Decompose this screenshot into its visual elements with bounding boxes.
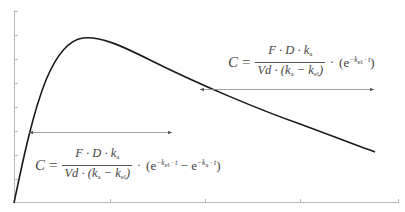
- y-axis: [15, 10, 19, 203]
- exponential-term: (e−kel · t): [339, 55, 375, 71]
- formula-equals: =: [242, 54, 250, 71]
- exponential-difference-term: (e−kel · t − e−ka · t): [146, 158, 220, 174]
- multiply-dot: ·: [137, 158, 141, 173]
- formula-equals: =: [49, 157, 57, 174]
- full-curve-formula: C = F · D · ka Vd · (ka − kel) · (e−kel …: [35, 146, 221, 185]
- fraction-numerator: F · D · ka: [266, 43, 314, 62]
- x-axis: [14, 199, 399, 203]
- multiply-dot: ·: [330, 55, 334, 70]
- elimination-formula: C = F · D · ka Vd · (ka − kel) · (e−kel …: [228, 43, 375, 82]
- formula-lhs: C: [228, 54, 238, 71]
- formula-fraction: F · D · ka Vd · (ka − kel): [255, 43, 325, 82]
- formula-lhs: C: [35, 157, 45, 174]
- fraction-denominator: Vd · (ka − kel): [255, 63, 325, 82]
- fraction-numerator: F · D · ka: [73, 146, 121, 165]
- formula-fraction: F · D · ka Vd · (ka − kel): [62, 146, 132, 185]
- fraction-denominator: Vd · (ka − kel): [62, 166, 132, 185]
